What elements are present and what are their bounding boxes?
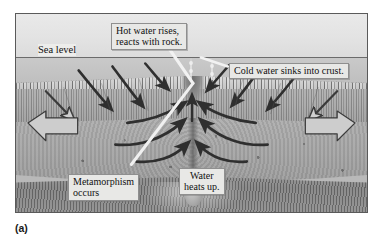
label-water-heats-up: Water heats up.: [179, 168, 225, 195]
figure-caption: (a): [15, 222, 28, 234]
label-cold-water-sinks: Cold water sinks into crust.: [229, 63, 349, 79]
label-hot-water-rises: Hot water rises, reacts with rock.: [111, 23, 187, 50]
curved-down-arrow-icon: [79, 64, 166, 107]
label-sea-level: Sea level: [38, 44, 76, 56]
diagram-frame: Sea level Hot water rises, reacts with r…: [15, 13, 368, 213]
curved-up-arrow-icon: [115, 123, 267, 145]
curved-down-arrow-icon: [313, 91, 337, 116]
label-metamorphism-occurs: Metamorphism occurs: [68, 174, 139, 201]
curved-up-arrow-icon: [136, 146, 246, 162]
figure-container: Sea level Hot water rises, reacts with r…: [0, 0, 385, 244]
callout-leader-line: [201, 58, 228, 67]
